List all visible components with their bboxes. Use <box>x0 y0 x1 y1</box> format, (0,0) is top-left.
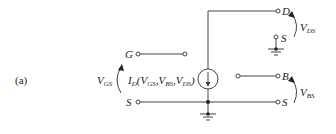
current-arrow-icon <box>206 82 211 87</box>
vgs-arrowhead-icon <box>118 64 124 71</box>
current-source-label: ID(VGS,VBS,VDS) <box>128 75 195 88</box>
circuit-wires <box>0 0 336 134</box>
gate-end-terminal <box>183 52 187 56</box>
source-right-label: S <box>282 97 288 108</box>
source-right-terminal <box>276 100 280 104</box>
body-label: B <box>282 71 289 82</box>
mosfet-model-diagram: (a) G S D S B S VGS VDS VBS ID(VGS,VBS,V… <box>0 0 336 134</box>
body-terminal <box>276 74 280 78</box>
junction-dot <box>206 100 210 104</box>
source-left-terminal <box>136 100 140 104</box>
source-drain-ref-label: S <box>281 33 287 44</box>
vds-label: VDS <box>300 22 315 35</box>
source-drain-ref-terminal <box>274 35 278 39</box>
drain-label: D <box>282 6 290 17</box>
gate-terminal <box>136 52 140 56</box>
vbs-arrowhead-icon <box>288 76 295 83</box>
ground-dot-drain <box>274 47 278 51</box>
source-left-label: S <box>126 97 132 108</box>
drain-terminal <box>276 9 280 13</box>
ground-dot <box>206 112 210 116</box>
vbs-label: VBS <box>300 87 315 100</box>
body-start-terminal <box>236 74 240 78</box>
gate-label: G <box>125 49 133 60</box>
panel-label: (a) <box>15 75 27 86</box>
vgs-label: VGS <box>97 75 112 88</box>
